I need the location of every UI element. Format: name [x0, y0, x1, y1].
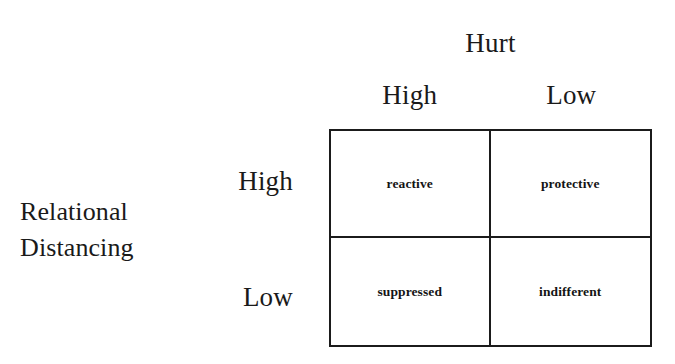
row-header-low: Low — [123, 281, 293, 313]
column-header-high: High — [329, 76, 491, 116]
row-header-high: High — [123, 165, 293, 197]
matrix-grid: reactive protective suppressed indiffere… — [329, 129, 652, 347]
column-axis-title: Hurt — [329, 26, 652, 60]
row-axis-title-line-2: Distancing — [20, 230, 220, 266]
matrix-cell-low-low: indifferent — [491, 238, 651, 345]
matrix-cell-low-high: suppressed — [331, 238, 491, 345]
column-header-row: High Low — [329, 76, 652, 116]
matrix-cell-high-low: protective — [491, 131, 651, 238]
matrix-cell-high-high: reactive — [331, 131, 491, 238]
row-axis-title: Relational Distancing — [20, 194, 220, 266]
relational-distancing-hurt-matrix-figure: Hurt High Low Relational Distancing High… — [0, 0, 675, 364]
row-axis-title-line-1: Relational — [20, 194, 220, 230]
column-header-low: Low — [491, 76, 653, 116]
